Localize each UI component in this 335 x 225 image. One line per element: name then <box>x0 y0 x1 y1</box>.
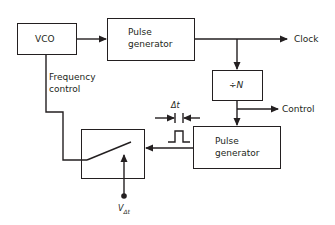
vco-label: VCO <box>35 34 55 45</box>
delta-t-label: Δt <box>171 100 180 111</box>
control-label: Control <box>282 104 315 115</box>
v-delta-t-label: VΔt <box>118 203 130 217</box>
divider-block: ÷N <box>212 70 263 101</box>
pulse-generator-1-block: Pulse generator <box>107 18 195 61</box>
pulse-generator-2-line1: Pulse <box>215 136 239 147</box>
frequency-control-label-line1: Frequency <box>49 72 96 83</box>
pulse-generator-2-block: Pulse generator <box>193 126 281 169</box>
divider-label: ÷N <box>229 80 243 91</box>
v-delta-t-sub: Δt <box>123 208 129 215</box>
vco-block: VCO <box>17 23 77 55</box>
switch-block <box>81 129 145 179</box>
clock-label: Clock <box>294 34 318 45</box>
terminal-dot <box>121 193 127 199</box>
pulse-generator-1-line1: Pulse <box>128 27 152 38</box>
pulse-generator-1-line2: generator <box>128 39 172 50</box>
frequency-control-label-line2: control <box>49 84 80 95</box>
pulse-generator-2-line2: generator <box>215 148 259 159</box>
pulse-shape <box>168 131 190 142</box>
